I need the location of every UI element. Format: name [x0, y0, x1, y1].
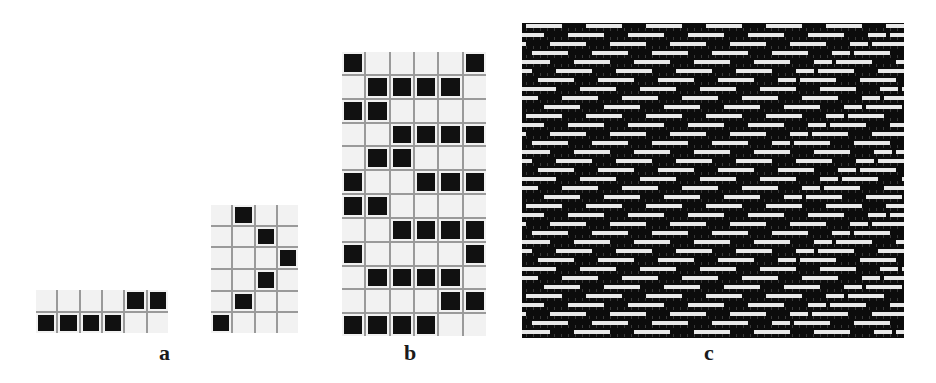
filled-cell: [464, 243, 486, 265]
filled-cell: [391, 124, 413, 146]
warp-dot-row: [522, 307, 904, 310]
empty-cell: [439, 314, 461, 336]
filled-cell: [211, 313, 231, 333]
panel-label-c: c: [704, 340, 714, 366]
filled-cell: [415, 124, 437, 146]
empty-cell: [148, 313, 168, 334]
empty-cell: [391, 100, 413, 122]
filled-cell: [391, 267, 413, 289]
filled-cell: [256, 227, 276, 247]
warp-dot-row: [522, 46, 904, 49]
woven-fabric-texture: [522, 23, 904, 338]
filled-cell: [342, 100, 364, 122]
filled-cell: [415, 76, 437, 98]
empty-cell: [211, 248, 231, 268]
empty-cell: [233, 227, 253, 247]
filled-cell: [439, 219, 461, 241]
empty-cell: [391, 290, 413, 312]
filled-cell: [464, 171, 486, 193]
warp-dot-row: [522, 82, 904, 85]
filled-cell: [148, 290, 168, 311]
empty-cell: [366, 52, 388, 74]
warp-dot-row: [522, 289, 904, 292]
empty-cell: [415, 100, 437, 122]
warp-dot-row: [522, 55, 904, 58]
warp-dot-row: [522, 73, 904, 76]
filled-cell: [464, 124, 486, 146]
warp-dot-row: [522, 334, 904, 337]
filled-cell: [278, 248, 298, 268]
filled-cell: [464, 290, 486, 312]
warp-dot-row: [522, 127, 904, 130]
empty-cell: [103, 290, 123, 311]
filled-cell: [103, 313, 123, 334]
empty-cell: [415, 147, 437, 169]
empty-cell: [464, 147, 486, 169]
empty-cell: [415, 290, 437, 312]
empty-cell: [464, 195, 486, 217]
filled-cell: [439, 290, 461, 312]
grid-a1: [36, 290, 168, 333]
empty-cell: [415, 52, 437, 74]
warp-dot-row: [522, 316, 904, 319]
warp-dot-row: [522, 181, 904, 184]
empty-cell: [233, 248, 253, 268]
filled-cell: [342, 243, 364, 265]
grid-b: [342, 52, 486, 336]
filled-cell: [366, 314, 388, 336]
warp-dot-row: [522, 118, 904, 121]
panel-label-a: a: [159, 340, 170, 366]
warp-dot-row: [522, 298, 904, 301]
empty-cell: [278, 313, 298, 333]
empty-cell: [125, 313, 145, 334]
filled-cell: [415, 219, 437, 241]
warp-dot-row: [522, 199, 904, 202]
warp-dot-row: [522, 280, 904, 283]
filled-cell: [366, 76, 388, 98]
empty-cell: [366, 290, 388, 312]
empty-cell: [391, 171, 413, 193]
filled-cell: [366, 195, 388, 217]
grid-a2: [211, 205, 298, 333]
filled-cell: [233, 292, 253, 312]
filled-cell: [439, 171, 461, 193]
empty-cell: [211, 227, 231, 247]
empty-cell: [233, 270, 253, 290]
empty-cell: [439, 100, 461, 122]
empty-cell: [439, 243, 461, 265]
filled-cell: [391, 314, 413, 336]
filled-cell: [366, 147, 388, 169]
filled-cell: [342, 171, 364, 193]
empty-cell: [233, 313, 253, 333]
filled-cell: [415, 267, 437, 289]
empty-cell: [342, 76, 364, 98]
empty-cell: [211, 270, 231, 290]
warp-dot-row: [522, 217, 904, 220]
empty-cell: [81, 290, 101, 311]
warp-dot-row: [522, 190, 904, 193]
filled-cell: [342, 52, 364, 74]
warp-dot-row: [522, 226, 904, 229]
empty-cell: [464, 314, 486, 336]
empty-cell: [342, 290, 364, 312]
filled-cell: [36, 313, 56, 334]
empty-cell: [211, 205, 231, 225]
empty-cell: [36, 290, 56, 311]
warp-dot-row: [522, 208, 904, 211]
filled-cell: [342, 314, 364, 336]
empty-cell: [342, 147, 364, 169]
empty-cell: [391, 195, 413, 217]
warp-dot-row: [522, 91, 904, 94]
empty-cell: [464, 267, 486, 289]
filled-cell: [81, 313, 101, 334]
empty-cell: [278, 292, 298, 312]
warp-dot-row: [522, 253, 904, 256]
warp-dot-row: [522, 100, 904, 103]
filled-cell: [464, 52, 486, 74]
filled-cell: [256, 270, 276, 290]
empty-cell: [278, 205, 298, 225]
filled-cell: [233, 205, 253, 225]
filled-cell: [439, 267, 461, 289]
empty-cell: [342, 219, 364, 241]
empty-cell: [439, 195, 461, 217]
